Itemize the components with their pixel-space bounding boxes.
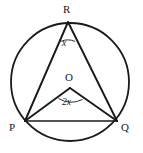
point-label-O: O [65, 72, 73, 83]
angle-label-x: x [62, 39, 66, 49]
segment-O-to-Q [70, 88, 117, 121]
point-label-P: P [9, 122, 15, 133]
point-label-Q: Q [121, 122, 129, 133]
angle-label-2x: 2x [62, 98, 71, 108]
point-label-R: R [63, 4, 70, 15]
geometry-figure: R O P Q x 2x [0, 0, 143, 153]
segment-R-to-Q [68, 22, 117, 121]
